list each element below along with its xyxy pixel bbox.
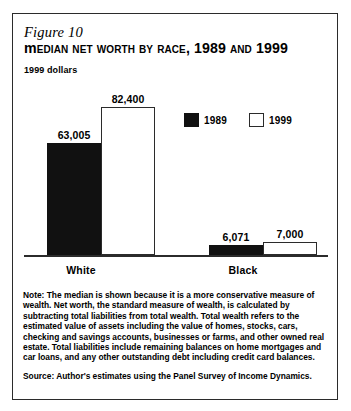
bar-white-1999 (101, 107, 155, 255)
legend-swatch-icon-1989 (184, 113, 199, 127)
bar-group-black: 6,071 7,000 (209, 105, 317, 255)
source-text: Source: Author's estimates using the Pan… (23, 371, 327, 381)
bar-value-black-1999: 7,000 (277, 228, 304, 240)
category-label-black: Black (183, 264, 303, 276)
bar-wrap-black-1999: 7,000 (263, 242, 317, 255)
note-text: Note: The median is shown because it is … (23, 290, 327, 363)
bar-value-white-1999: 82,400 (112, 93, 145, 105)
notes-block: Note: The median is shown because it is … (23, 290, 327, 381)
figure-inner: Figure 10 Median Net Worth by Race, 1989… (13, 14, 337, 399)
page-title: Median Net Worth by Race, 1989 and 1999 (24, 41, 314, 57)
category-label-white: White (21, 264, 141, 276)
bar-value-white-1989: 63,005 (58, 129, 91, 141)
chart-plot-area: 1989 1999 63,005 82,400 6 (24, 102, 328, 284)
bar-black-1989 (209, 245, 263, 255)
bar-wrap-white-1999: 82,400 (101, 107, 155, 255)
figure-card: Figure 10 Median Net Worth by Race, 1989… (12, 13, 338, 400)
bar-wrap-white-1989: 63,005 (47, 143, 101, 255)
bar-wrap-black-1989: 6,071 (209, 245, 263, 255)
units-label: 1999 dollars (24, 65, 327, 75)
bar-white-1989 (47, 143, 101, 255)
bar-value-black-1989: 6,071 (223, 231, 250, 243)
bar-group-white: 63,005 82,400 (47, 105, 155, 255)
figure-number: Figure 10 (24, 24, 327, 40)
bar-black-1999 (263, 242, 317, 255)
chart-baseline-axis (24, 255, 328, 257)
